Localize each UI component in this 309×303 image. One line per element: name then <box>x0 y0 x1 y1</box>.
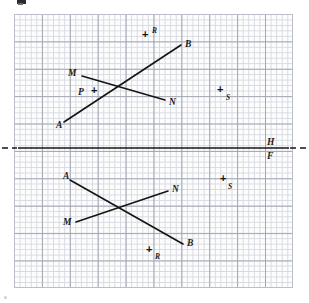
bottom-line-MN <box>76 191 168 222</box>
bottom-point-cross-R-icon: + <box>146 244 152 255</box>
bottom-label-B: B <box>187 239 193 249</box>
top-point-cross-P-icon: + <box>91 85 97 96</box>
fold-line-label-F: F <box>267 152 273 162</box>
top-point-label-S: S <box>226 94 230 102</box>
top-view-lines <box>64 45 181 122</box>
bottom-line-AB <box>70 180 183 244</box>
figure-canvas: H F A B M N P + + R + S A B M N + R + S <box>0 0 309 303</box>
top-label-B: B <box>185 40 191 50</box>
bottom-label-A: A <box>63 172 69 182</box>
bottom-label-M: M <box>63 218 71 228</box>
bottom-point-label-S: S <box>228 183 232 191</box>
bottom-view-lines <box>70 180 183 244</box>
bottom-point-label-R: R <box>155 253 160 261</box>
bottom-label-N: N <box>172 185 179 195</box>
bottom-point-cross-S-icon: + <box>220 173 226 184</box>
scan-speck-artifact <box>4 296 7 299</box>
top-label-M: M <box>68 69 76 79</box>
top-label-A: A <box>56 121 62 131</box>
top-point-label-R: R <box>152 27 157 35</box>
top-point-cross-R-icon: + <box>142 29 148 40</box>
top-point-cross-S-icon: + <box>217 84 223 95</box>
top-point-label-P: P <box>78 88 84 98</box>
fold-line-label-H: H <box>267 138 274 148</box>
top-label-N: N <box>169 98 176 108</box>
top-line-AB <box>64 45 181 122</box>
